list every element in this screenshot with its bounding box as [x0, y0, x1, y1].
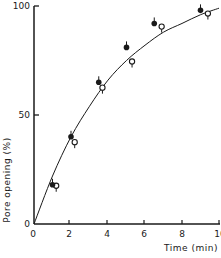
filled-circle-marker	[96, 80, 102, 86]
open-circle-marker	[72, 140, 77, 145]
series-filled	[50, 4, 204, 187]
open-circle-marker	[100, 85, 105, 90]
filled-circle-marker	[50, 182, 56, 188]
x-tick-label: 2	[66, 229, 72, 239]
fitted-curve	[34, 8, 219, 224]
x-tick-label: 4	[104, 229, 110, 239]
open-circle-marker	[129, 59, 134, 64]
x-tick-label: 10	[214, 229, 221, 239]
filled-circle-marker	[124, 45, 130, 51]
filled-circle-marker	[151, 21, 157, 27]
x-tick-label: 6	[141, 229, 147, 239]
x-axis-title: Time (min)	[163, 243, 218, 253]
filled-circle-marker	[198, 8, 204, 14]
x-axis: 0 2 4 6 8 10 Time (min)	[30, 220, 221, 253]
open-circle-marker	[205, 11, 210, 16]
x-tick-label: 0	[30, 229, 36, 239]
y-axis-title: Pore opening (%)	[2, 137, 12, 222]
y-axis: 100 50 0	[13, 1, 39, 229]
series-open	[54, 11, 211, 192]
x-tick-label: 8	[179, 229, 185, 239]
y-tick-label: 50	[19, 110, 31, 120]
filled-circle-marker	[68, 134, 74, 140]
y-tick-label: 100	[13, 1, 30, 11]
y-tick-label: 0	[24, 219, 30, 229]
chart: 100 50 0 0 2 4 6 8 10 Time (min) Pore op…	[0, 0, 221, 258]
open-circle-marker	[159, 24, 164, 29]
